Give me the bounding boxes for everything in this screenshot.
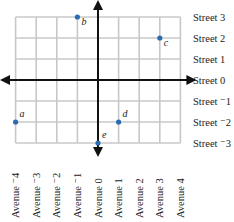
point-label-a: a [20, 108, 25, 119]
avenue-label: Avenue 4 [175, 178, 186, 218]
avenue-label: Avenue 2 [134, 178, 145, 218]
street-avenue-grid: Street 3Street 2Street 1Street 0Street ⁻… [0, 0, 234, 222]
point-b [75, 14, 80, 19]
avenue-labels: Avenue ⁻4Avenue ⁻3Avenue ⁻2Avenue ⁻1Aven… [10, 172, 186, 218]
avenue-label: Avenue ⁻4 [10, 172, 21, 218]
street-label: Street ⁻1 [193, 96, 231, 107]
axes [2, 2, 194, 155]
street-label: Street ⁻2 [193, 117, 231, 128]
avenue-label: Avenue ⁻2 [51, 173, 62, 218]
point-e [95, 140, 100, 145]
street-labels: Street 3Street 2Street 1Street 0Street ⁻… [193, 12, 231, 149]
point-label-e: e [102, 129, 107, 140]
avenue-label: Avenue 3 [154, 178, 165, 218]
street-label: Street 3 [193, 12, 225, 23]
point-label-d: d [123, 108, 129, 119]
point-c [157, 35, 162, 40]
street-label: Street 2 [193, 33, 225, 44]
point-d [116, 119, 121, 124]
point-a [13, 119, 18, 124]
point-label-c: c [164, 37, 169, 48]
avenue-label: Avenue 0 [93, 178, 104, 218]
street-label: Street 1 [193, 54, 225, 65]
avenue-label: Avenue ⁻3 [31, 173, 42, 218]
street-label: Street 0 [193, 75, 225, 86]
avenue-label: Avenue 1 [113, 178, 124, 218]
avenue-label: Avenue ⁻1 [72, 173, 83, 218]
point-label-b: b [81, 16, 86, 27]
street-label: Street ⁻3 [193, 138, 231, 149]
